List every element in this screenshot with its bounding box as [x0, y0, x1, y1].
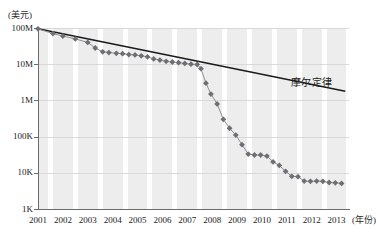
- data-point-marker: [339, 180, 345, 186]
- data-point-marker: [314, 178, 320, 184]
- data-point-marker: [176, 60, 182, 66]
- data-point-marker: [214, 101, 220, 107]
- data-point-marker: [113, 50, 119, 56]
- data-point-marker: [245, 151, 251, 157]
- data-point-marker: [258, 152, 264, 158]
- data-point-marker: [169, 59, 175, 65]
- data-point-marker: [203, 80, 209, 86]
- data-point-marker: [35, 26, 41, 32]
- data-point-marker: [106, 50, 112, 56]
- data-point-marker: [188, 61, 194, 67]
- data-point-marker: [126, 52, 132, 58]
- data-point-marker: [326, 180, 332, 186]
- cost-series-line: [38, 29, 342, 184]
- chart-data-layer: [0, 0, 390, 239]
- data-point-marker: [151, 56, 157, 62]
- data-point-marker: [145, 54, 151, 60]
- data-point-marker: [239, 142, 245, 148]
- data-point-marker: [308, 178, 314, 184]
- data-point-marker: [157, 57, 163, 63]
- data-point-marker: [220, 116, 226, 122]
- data-point-marker: [120, 51, 126, 57]
- data-point-marker: [163, 58, 169, 64]
- data-point-marker: [332, 180, 338, 186]
- data-point-marker: [182, 61, 188, 67]
- data-point-marker: [100, 49, 106, 55]
- moore-law-annotation: 摩尔定律: [291, 77, 333, 88]
- data-point-marker: [208, 91, 214, 97]
- data-point-marker: [132, 52, 138, 58]
- sequencing-cost-chart: (美元) 100M10M1M100K10K1K 2001200220032004…: [0, 0, 390, 239]
- data-point-marker: [138, 53, 144, 59]
- data-point-marker: [252, 152, 258, 158]
- data-point-marker: [320, 178, 326, 184]
